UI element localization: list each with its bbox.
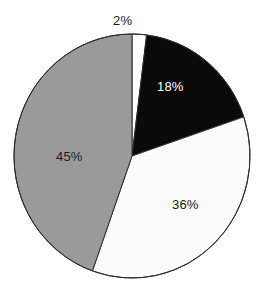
pie-chart: 2% 18% 36% 45% xyxy=(0,0,268,292)
pie-chart-canvas xyxy=(0,0,268,292)
pie-slices-group xyxy=(14,34,250,278)
